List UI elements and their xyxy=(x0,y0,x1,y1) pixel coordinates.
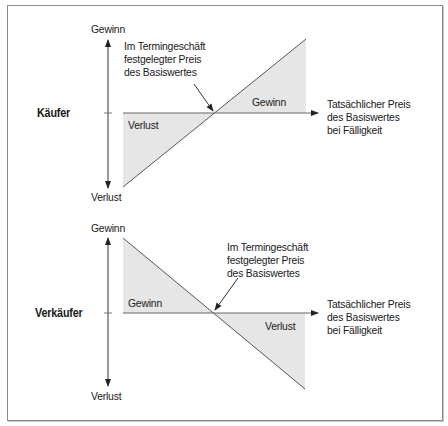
seller-strike-pointer xyxy=(215,278,238,310)
buyer-y-bottom-label: Verlust xyxy=(91,191,121,204)
seller-role-label: Verkäufer xyxy=(35,307,83,320)
payoff-diagram xyxy=(0,0,448,426)
seller-y-top-label: Gewinn xyxy=(91,222,125,235)
buyer-loss-label: Verlust xyxy=(128,119,158,132)
seller-x-axis-label: Tatsächlicher Preis des Basiswertes bei … xyxy=(327,298,410,337)
seller-loss-label: Verlust xyxy=(265,320,295,333)
buyer-strike-pointer xyxy=(194,84,213,111)
buyer-y-top-label: Gewinn xyxy=(91,23,125,36)
seller-gain-label: Gewinn xyxy=(128,297,162,310)
seller-strike-annotation: Im Termingeschäft festgelegter Preis des… xyxy=(227,241,308,280)
seller-y-bottom-label: Verlust xyxy=(91,390,121,403)
buyer-gain-label: Gewinn xyxy=(252,96,286,109)
buyer-role-label: Käufer xyxy=(37,107,70,120)
buyer-x-axis-label: Tatsächlicher Preis des Basiswertes bei … xyxy=(327,98,410,137)
buyer-strike-annotation: Im Termingeschäft festgelegter Preis des… xyxy=(124,40,205,79)
